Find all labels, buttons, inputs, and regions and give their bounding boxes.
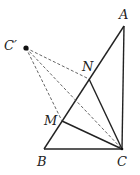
- label-M: M: [43, 113, 58, 128]
- segment-NC: [89, 79, 122, 149]
- segment-CprimeN: [26, 48, 89, 79]
- dashed-segments: [26, 48, 122, 149]
- label-N: N: [81, 59, 94, 74]
- segment-AC: [122, 26, 124, 149]
- label-B: B: [36, 154, 47, 169]
- label-A: A: [118, 7, 128, 22]
- segment-CprimeC: [26, 48, 122, 149]
- point-C-prime-dot: [23, 45, 28, 50]
- segment-CprimeM: [26, 48, 62, 121]
- label-C: C: [117, 154, 127, 169]
- segment-MC: [62, 121, 122, 149]
- point-C-dot: [121, 148, 124, 151]
- solid-segments: [44, 26, 124, 149]
- geometry-diagram: A B C C′ M N: [0, 0, 140, 175]
- label-C-prime: C′: [4, 38, 17, 53]
